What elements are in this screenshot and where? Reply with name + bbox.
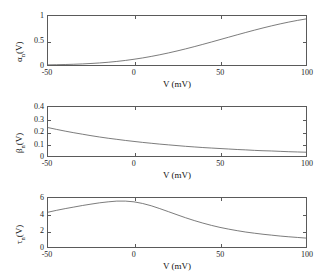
ytick-mark [303,215,306,216]
xtick-label: 50 [205,251,235,259]
ytick-label: 4 [18,211,44,219]
xtick-label: 0 [119,251,149,259]
xtick-mark [221,107,222,110]
ytick-mark [48,42,51,43]
xtick-label: 100 [292,69,322,77]
panel-alpha-n: αn(V) 1 0.5 0 -50 0 50 100 V (mV) [0,0,325,92]
xtick-label: 0 [119,160,149,168]
y-axis-label-subscript: n [19,54,26,57]
ytick-label: 2 [18,227,44,235]
ytick-mark [303,42,306,43]
xtick-mark [135,62,136,65]
axes-tau-n [47,197,307,248]
ytick-label: 0.5 [18,37,44,45]
ytick-label: 0.1 [18,141,44,149]
xtick-label: -50 [32,69,62,77]
xtick-mark [221,244,222,247]
x-axis-label-tau-n: V (mV) [47,261,307,271]
ytick-mark [48,232,51,233]
x-axis-label-beta-n: V (mV) [47,170,307,180]
ytick-mark [48,133,51,134]
ytick-mark [48,120,51,121]
ytick-mark [48,145,51,146]
xtick-mark [135,16,136,19]
xtick-mark [221,153,222,156]
xtick-mark [221,62,222,65]
axes-alpha-n [47,15,307,66]
ytick-mark [48,215,51,216]
xtick-mark [135,107,136,110]
figure-hodgkin-huxley-gating-rates: αn(V) 1 0.5 0 -50 0 50 100 V (mV) βn(V) [0,0,325,275]
ytick-label: 0.4 [18,103,44,111]
ytick-mark [303,145,306,146]
xtick-mark [135,198,136,201]
data-line-beta-n [48,128,306,153]
ytick-mark [303,133,306,134]
ytick-label: 0.2 [18,128,44,136]
xtick-label: 50 [205,160,235,168]
panel-tau-n: τn(V) 6 4 2 0 -50 0 50 100 V (mV) [0,182,325,274]
xtick-mark [221,16,222,19]
ytick-label: 1 [18,12,44,20]
data-line-tau-n [48,201,306,238]
ytick-label: 0.3 [18,116,44,124]
xtick-mark [221,198,222,201]
xtick-label: 50 [205,69,235,77]
ytick-mark [303,232,306,233]
xtick-label: 100 [292,160,322,168]
xtick-mark [135,244,136,247]
xtick-label: 100 [292,251,322,259]
axes-beta-n [47,106,307,157]
xtick-label: -50 [32,160,62,168]
y-axis-label-subscript: n [19,237,26,240]
data-line-alpha-n [48,19,306,65]
ytick-label: 6 [18,194,44,202]
x-axis-label-alpha-n: V (mV) [47,79,307,89]
plot-area-beta-n [48,107,306,156]
xtick-label: 0 [119,69,149,77]
panel-beta-n: βn(V) 0.4 0.3 0.2 0.1 0 -50 0 50 100 V (… [0,91,325,183]
xtick-mark [135,153,136,156]
plot-area-alpha-n [48,16,306,65]
xtick-label: -50 [32,251,62,259]
ytick-mark [303,120,306,121]
plot-area-tau-n [48,198,306,247]
